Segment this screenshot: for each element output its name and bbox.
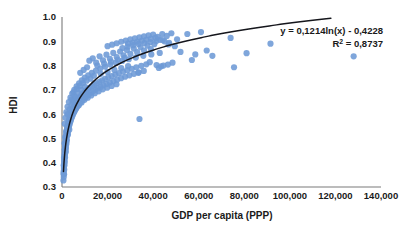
y-axis-tick-labels: 0.30.40.50.60.70.80.91.0	[43, 11, 57, 192]
data-point	[108, 59, 114, 65]
scatter-plot: 0.30.40.50.60.70.80.91.0 020,00040,00060…	[0, 0, 406, 234]
y-axis-tick-label: 0.9	[43, 36, 56, 47]
x-axis-tick-label: 0	[59, 190, 64, 201]
x-axis-tick-label: 120,000	[318, 190, 352, 201]
y-axis-tick-label: 1.0	[43, 11, 56, 22]
data-point	[192, 51, 198, 57]
data-point	[198, 29, 204, 35]
x-axis-tick-label: 40,000	[139, 190, 168, 201]
chart-container: 0.30.40.50.60.70.80.91.0 020,00040,00060…	[0, 0, 406, 234]
y-axis-tick-label: 0.8	[43, 60, 56, 71]
data-point	[130, 42, 136, 48]
data-point	[101, 61, 107, 67]
y-axis-tick-label: 0.4	[43, 157, 57, 168]
x-axis-tick-label: 20,000	[93, 190, 122, 201]
data-point	[91, 73, 97, 79]
data-point	[147, 59, 153, 65]
data-point	[165, 62, 171, 68]
x-axis-title: GDP per capita (PPP)	[172, 210, 273, 221]
data-point	[228, 35, 234, 41]
y-axis-tick-label: 0.6	[43, 109, 56, 120]
y-axis-tick-label: 0.3	[43, 181, 56, 192]
data-point	[267, 41, 273, 47]
data-point	[147, 39, 153, 45]
data-point	[168, 30, 174, 36]
data-points-layer	[60, 29, 356, 184]
data-point	[136, 116, 142, 122]
y-axis-tick-label: 0.7	[43, 84, 56, 95]
data-point	[184, 31, 190, 37]
data-point	[135, 41, 141, 47]
data-point	[135, 70, 141, 76]
trendline-equation-label: y = 0,1214ln(x) - 0,4228	[280, 25, 383, 36]
x-axis-tick-label: 60,000	[184, 190, 213, 201]
data-point	[125, 63, 131, 69]
data-point	[94, 62, 100, 68]
data-point	[231, 64, 237, 70]
data-point	[153, 38, 159, 44]
data-point	[177, 49, 183, 55]
data-point	[127, 51, 133, 57]
data-point	[141, 68, 147, 74]
data-point	[125, 44, 131, 50]
data-point	[174, 36, 180, 42]
data-point	[156, 65, 162, 71]
data-point	[189, 57, 195, 63]
y-axis-title: HDI	[8, 96, 19, 113]
r-squared-label: R2 = 0,8737	[332, 38, 383, 50]
data-point	[160, 37, 166, 43]
data-point	[204, 47, 210, 53]
x-axis-tick-labels: 020,00040,00060,00080,000100,000120,0001…	[59, 190, 398, 201]
data-point	[113, 81, 119, 87]
y-axis-tick-label: 0.5	[43, 133, 57, 144]
data-point	[141, 40, 147, 46]
data-point	[209, 53, 215, 59]
data-point	[118, 65, 124, 71]
data-point	[84, 64, 90, 70]
x-axis-tick-label: 80,000	[230, 190, 259, 201]
data-point	[84, 78, 90, 84]
data-point	[119, 45, 125, 51]
trendline	[63, 18, 330, 171]
r-squared-value: = 0,8737	[343, 38, 383, 49]
x-axis-tick-label: 140,000	[364, 190, 398, 201]
data-point	[243, 50, 249, 56]
data-point	[157, 50, 163, 56]
data-point	[351, 53, 357, 59]
x-axis-tick-label: 100,000	[273, 190, 307, 201]
data-point	[115, 57, 121, 63]
